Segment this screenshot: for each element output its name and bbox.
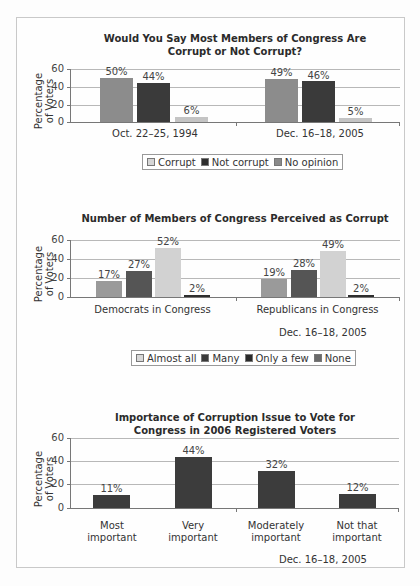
gridline [71,259,400,260]
x-tickmark [236,297,237,301]
bar-corrupt-2005 [265,79,298,122]
category-line: important [157,532,229,544]
gridline [71,461,399,462]
chart-3-title-line-1: Importance of Corruption Issue to Vote f… [70,411,400,424]
bar-very-important [175,457,212,508]
category-label: Most important [76,520,148,544]
y-tick-40: 40 [44,456,64,466]
chart-1-title: Would You Say Most Members of Congress A… [70,32,400,58]
value-label: 50% [100,67,133,77]
bar-not-corrupt-2005 [302,81,335,122]
bar-dem-many [126,271,152,297]
legend-item-almost-all: Almost all [136,353,196,364]
y-tick-20: 20 [44,479,64,489]
legend-item-corrupt: Corrupt [147,157,196,168]
value-label: 52% [155,237,181,247]
category-line: Very [157,520,229,532]
legend-swatch-icon [136,354,144,362]
value-label: 46% [302,71,335,81]
gridline [71,240,400,241]
legend-label: Only a few [256,353,309,364]
value-label: 19% [261,268,287,278]
chart-1-title-line-2: Corrupt or Not Corrupt? [70,45,400,58]
bar-moderately-important [258,471,295,508]
legend-item-no-opinion: No opinion [274,157,339,168]
value-label: 2% [348,284,374,294]
value-label: 28% [291,259,317,269]
bar-rep-only-a-few [320,251,346,297]
value-label: 44% [175,446,212,456]
y-tick-60: 60 [44,64,64,74]
legend-item-only-a-few: Only a few [245,353,309,364]
y-tick-60: 60 [44,235,64,245]
y-tick-60: 60 [44,433,64,443]
bar-corrupt-1994 [100,78,133,122]
category-label: Moderately important [236,520,316,544]
category-line: important [236,532,316,544]
y-tick-0: 0 [44,117,64,127]
legend-item-many: Many [201,353,239,364]
value-label: 6% [175,106,208,116]
legend-label: Corrupt [158,157,196,168]
chart-1-legend: Corrupt Not corrupt No opinion [142,154,343,170]
legend-swatch-icon [201,158,209,166]
survey-date: Dec. 16–18, 2005 [279,554,367,565]
bar-rep-many [291,270,317,297]
chart-2-title: Number of Members of Congress Perceived … [70,212,400,225]
chart-1-title-line-1: Would You Say Most Members of Congress A… [70,32,400,45]
y-label-line-1: Percentage [33,239,44,309]
gridline [71,438,399,439]
category-line: important [321,532,393,544]
value-label: 49% [320,240,346,250]
y-label-line-1: Percentage [33,66,44,136]
value-label: 17% [96,270,122,280]
bar-rep-almost-all [261,279,287,297]
legend-item-not-corrupt: Not corrupt [201,157,269,168]
legend-swatch-icon [274,158,282,166]
x-tickmark [399,122,400,126]
chart-2-legend: Almost all Many Only a few None [131,350,356,366]
y-axis-line [70,69,71,123]
legend-item-none: None [314,353,351,364]
x-tickmark [236,508,237,512]
category-line: Not that [321,520,393,532]
y-tick-0: 0 [44,503,64,513]
legend-swatch-icon [314,354,322,362]
y-label-line-1: Percentage [33,444,44,514]
value-label: 32% [258,460,295,470]
legend-swatch-icon [201,354,209,362]
y-tick-20: 20 [44,273,64,283]
y-tick-40: 40 [44,254,64,264]
value-label: 11% [93,484,130,494]
y-tick-20: 20 [44,100,64,110]
bar-dem-only-a-few [155,248,181,297]
bar-not-corrupt-1994 [137,83,170,122]
category-line: Most [76,520,148,532]
value-label: 5% [339,107,372,117]
bar-dem-almost-all [96,281,122,297]
category-label: Not that important [321,520,393,544]
legend-label: Almost all [147,353,196,364]
x-axis-line [70,508,399,509]
legend-swatch-icon [147,158,155,166]
x-tickmark [399,297,400,301]
legend-label: No opinion [285,157,339,168]
y-tick-0: 0 [44,292,64,302]
category-label: Oct. 22–25, 1994 [85,128,225,140]
category-label: Republicans in Congress [245,304,390,316]
category-line: important [76,532,148,544]
category-label: Dec. 16–18, 2005 [250,128,390,140]
y-axis-line [70,240,71,298]
category-line: Moderately [236,520,316,532]
value-label: 44% [137,72,170,82]
x-axis-line [70,297,400,298]
value-label: 2% [184,284,210,294]
value-label: 12% [339,483,376,493]
legend-label: Not corrupt [212,157,269,168]
value-label: 27% [126,260,152,270]
x-tickmark [236,122,237,126]
chart-3-title: Importance of Corruption Issue to Vote f… [70,411,400,437]
legend-label: None [325,353,351,364]
y-tick-40: 40 [44,82,64,92]
y-axis-line [70,438,71,509]
